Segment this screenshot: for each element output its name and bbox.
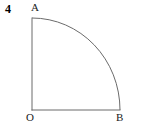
vertex-label-b: B bbox=[116, 112, 123, 123]
figure-container: 4 A O B bbox=[0, 0, 141, 127]
vertex-label-a: A bbox=[31, 2, 39, 13]
vertex-label-o: O bbox=[26, 112, 34, 123]
problem-number: 4 bbox=[5, 3, 11, 15]
quarter-circle-diagram bbox=[0, 0, 141, 127]
